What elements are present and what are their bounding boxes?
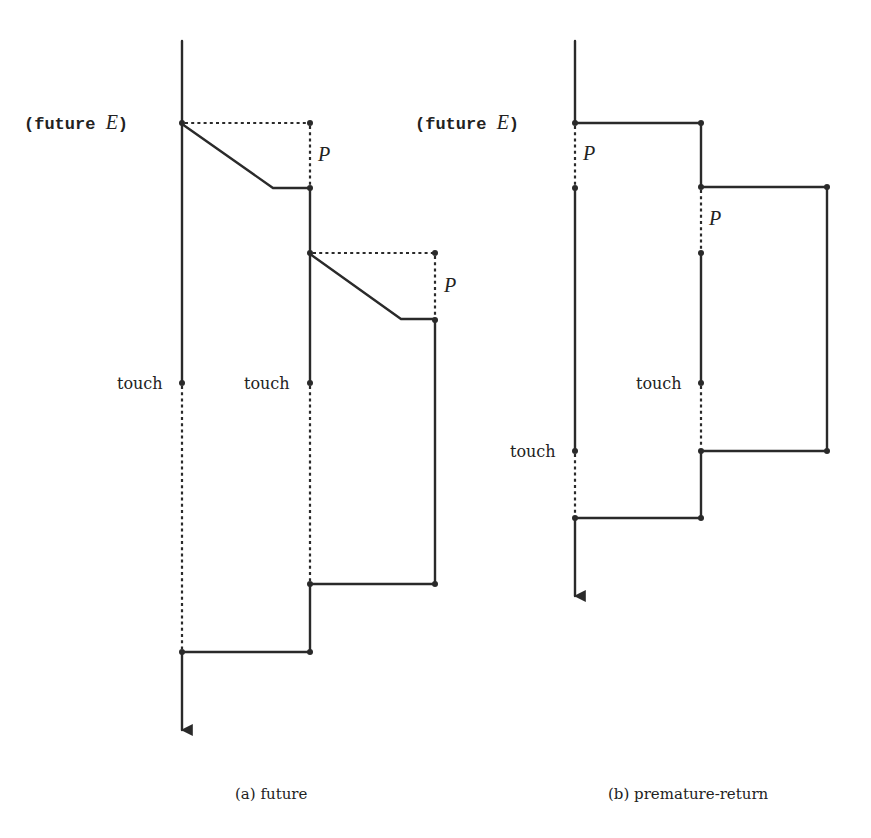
fork-label: (future E) [24, 111, 128, 134]
placeholder-label: P [582, 142, 595, 164]
panel-b-premature-return: (future E) P P touch touch (b) premature… [415, 41, 830, 803]
touch-label-2: touch [636, 374, 682, 393]
placeholder-label-2: P [443, 274, 456, 296]
fork-label: (future E) [415, 111, 519, 134]
touch-point-2 [698, 380, 704, 386]
panel-a-future: (future E) P P touch touch (a) future [24, 41, 456, 803]
touch-label: touch [117, 374, 163, 393]
placeholder-label-2: P [708, 207, 721, 229]
placeholder-point-2 [432, 250, 438, 256]
touch-label-2: touch [244, 374, 290, 393]
spawn-diagonal-2 [310, 254, 435, 319]
touch-point [179, 380, 185, 386]
touch-point [572, 448, 578, 454]
placeholder-label: P [317, 143, 330, 165]
placeholder-point [307, 120, 313, 126]
spawn-diagonal [182, 124, 310, 188]
figure-canvas: (future E) P P touch touch (a) future [0, 0, 871, 838]
touch-label: touch [510, 442, 556, 461]
touch-point-2 [307, 380, 313, 386]
panel-caption: (a) future [235, 785, 307, 803]
panel-caption: (b) premature-return [608, 785, 769, 803]
